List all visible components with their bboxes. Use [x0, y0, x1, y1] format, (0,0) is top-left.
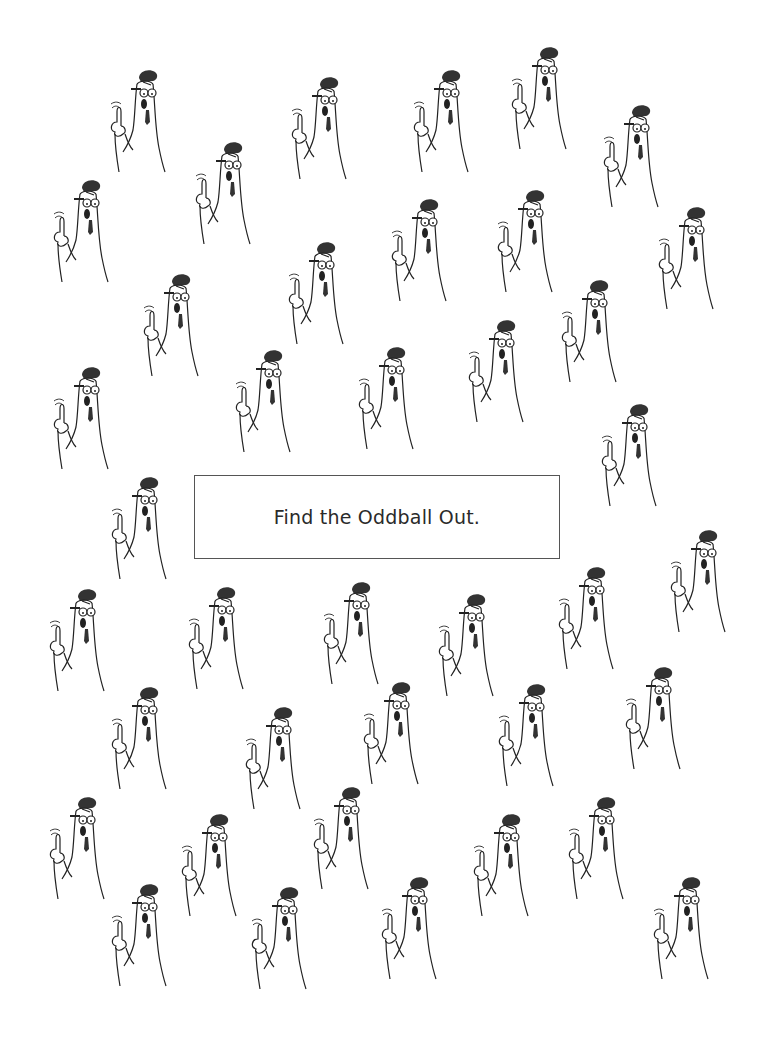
character-figure[interactable]: [278, 75, 350, 183]
character-icon: [612, 665, 684, 773]
character-figure[interactable]: [378, 197, 450, 305]
character-figure[interactable]: [612, 665, 684, 773]
character-icon: [498, 45, 570, 153]
character-figure[interactable]: [40, 178, 112, 286]
character-figure[interactable]: [657, 528, 729, 636]
character-icon: [555, 795, 627, 903]
character-figure[interactable]: [97, 68, 169, 176]
character-figure[interactable]: [555, 795, 627, 903]
character-icon: [98, 882, 170, 990]
character-icon: [460, 812, 532, 920]
character-icon: [130, 272, 202, 380]
character-figure[interactable]: [168, 812, 240, 920]
character-figure[interactable]: [182, 140, 254, 248]
character-figure[interactable]: [460, 812, 532, 920]
character-icon: [455, 318, 527, 426]
character-icon: [98, 475, 170, 583]
character-icon: [645, 205, 717, 313]
character-icon: [400, 68, 472, 176]
character-figure[interactable]: [300, 785, 372, 893]
prompt-text: Find the Oddball Out.: [274, 506, 480, 528]
character-icon: [182, 140, 254, 248]
character-icon: [484, 188, 556, 296]
character-figure[interactable]: [545, 565, 617, 673]
character-icon: [98, 685, 170, 793]
character-icon: [640, 875, 712, 983]
character-figure[interactable]: [645, 205, 717, 313]
prompt-box: Find the Oddball Out.: [194, 475, 560, 559]
character-icon: [657, 528, 729, 636]
character-figure[interactable]: [232, 705, 304, 813]
character-figure[interactable]: [455, 318, 527, 426]
character-icon: [588, 402, 660, 510]
character-icon: [232, 705, 304, 813]
character-figure[interactable]: [175, 585, 247, 693]
character-figure[interactable]: [98, 685, 170, 793]
character-icon: [40, 178, 112, 286]
character-icon: [278, 75, 350, 183]
character-figure[interactable]: [484, 188, 556, 296]
character-icon: [350, 680, 422, 788]
character-icon: [378, 197, 450, 305]
character-icon: [368, 875, 440, 983]
character-figure[interactable]: [640, 875, 712, 983]
character-figure[interactable]: [400, 68, 472, 176]
character-figure[interactable]: [36, 587, 108, 695]
character-icon: [545, 565, 617, 673]
character-figure[interactable]: [275, 240, 347, 348]
character-figure[interactable]: [485, 682, 557, 790]
character-icon: [275, 240, 347, 348]
character-icon: [238, 885, 310, 993]
character-icon: [97, 68, 169, 176]
character-figure[interactable]: [350, 680, 422, 788]
character-icon: [175, 585, 247, 693]
character-icon: [310, 580, 382, 688]
character-icon: [485, 682, 557, 790]
character-figure[interactable]: [98, 475, 170, 583]
character-figure[interactable]: [368, 875, 440, 983]
character-icon: [548, 278, 620, 386]
character-figure[interactable]: [498, 45, 570, 153]
character-figure[interactable]: [222, 348, 294, 456]
character-icon: [40, 365, 112, 473]
character-figure[interactable]: [588, 402, 660, 510]
character-icon: [36, 587, 108, 695]
character-figure[interactable]: [40, 365, 112, 473]
character-figure[interactable]: [345, 345, 417, 453]
character-figure[interactable]: [548, 278, 620, 386]
character-figure[interactable]: [98, 882, 170, 990]
character-figure[interactable]: [238, 885, 310, 993]
character-icon: [300, 785, 372, 893]
character-icon: [345, 345, 417, 453]
character-figure[interactable]: [590, 103, 662, 211]
character-figure[interactable]: [310, 580, 382, 688]
character-icon: [590, 103, 662, 211]
character-icon: [168, 812, 240, 920]
character-icon: [222, 348, 294, 456]
character-figure[interactable]: [130, 272, 202, 380]
